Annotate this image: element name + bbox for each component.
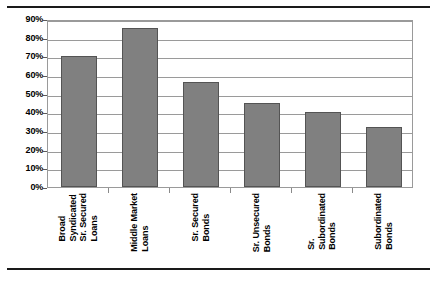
x-axis-label-text: SubordinatedBonds: [372, 193, 393, 250]
x-axis-label-text: Sr. UnsecuredBonds: [250, 193, 271, 252]
x-axis-label: Middle MarketLoans: [107, 193, 171, 263]
y-axis-tick-mark: [43, 188, 47, 189]
y-axis-tick-label: 20%: [7, 146, 43, 155]
y-axis-tick-label: 60%: [7, 71, 43, 80]
bottom-divider-rule: [7, 268, 430, 270]
top-divider-rule: [7, 6, 430, 8]
bar: [183, 82, 219, 187]
y-axis-tick-label: 80%: [7, 34, 43, 43]
bar-slot: [292, 21, 353, 187]
bar: [366, 127, 402, 187]
x-axis-label-text: Middle MarketLoans: [128, 193, 149, 252]
bar: [305, 112, 341, 187]
y-axis-tick-label: 10%: [7, 164, 43, 173]
y-axis-tick-label: 50%: [7, 90, 43, 99]
plot-area: [47, 20, 413, 188]
x-axis-label: Sr.SubordinatedBonds: [290, 193, 354, 263]
x-axis-label: Sr. UnsecuredBonds: [229, 193, 293, 263]
x-axis-label-text: Sr. SecuredBonds: [189, 193, 210, 241]
y-axis-tick-label: 90%: [7, 15, 43, 24]
bar-slot: [353, 21, 414, 187]
y-axis-tick-label: 40%: [7, 108, 43, 117]
bar: [122, 28, 158, 187]
x-axis-label-text: BroadSyndicatedSr. SecuredLoans: [57, 193, 99, 241]
bar-slot: [109, 21, 170, 187]
y-axis-tick-label: 30%: [7, 127, 43, 136]
x-axis-label: Sr. SecuredBonds: [168, 193, 232, 263]
y-axis-tick-label: 70%: [7, 52, 43, 61]
bar: [61, 56, 97, 187]
x-axis-label: BroadSyndicatedSr. SecuredLoans: [46, 193, 110, 263]
x-axis-label-text: Sr.SubordinatedBonds: [306, 193, 338, 250]
bar-slot: [170, 21, 231, 187]
chart-figure: 0%10%20%30%40%50%60%70%80%90% BroadSyndi…: [0, 0, 437, 284]
bar: [244, 103, 280, 187]
bar-slot: [231, 21, 292, 187]
x-axis-label: SubordinatedBonds: [351, 193, 415, 263]
y-axis-tick-label: 0%: [7, 183, 43, 192]
bar-slot: [48, 21, 109, 187]
